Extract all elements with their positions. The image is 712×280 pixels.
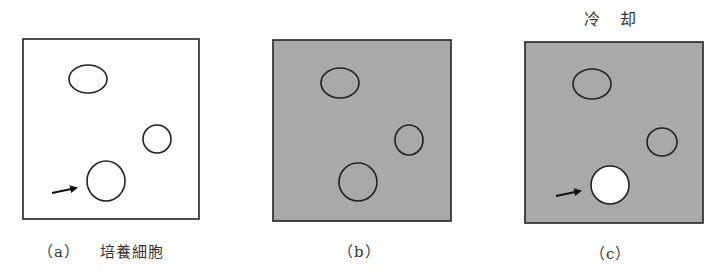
panel-b	[273, 40, 451, 221]
panel-a-caption: 培養細胞	[100, 240, 164, 261]
panel-b-frame	[273, 40, 451, 221]
panel-b-label: （b）	[338, 240, 381, 261]
panel-c-title: 冷 却	[584, 6, 638, 30]
panel-a	[23, 39, 199, 219]
panel-a-label: （a）	[38, 240, 80, 261]
panel-a-frame	[23, 39, 199, 219]
cell-white-target	[591, 166, 629, 204]
panel-c	[525, 42, 703, 223]
figure-canvas	[0, 0, 712, 280]
panel-c-label: （c）	[590, 242, 631, 263]
